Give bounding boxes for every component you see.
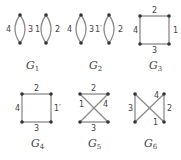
edge-label: 4 [133, 26, 138, 35]
edge [104, 15, 109, 43]
vertex [18, 41, 22, 45]
graph-diagram: 4 3 1 2 G1 4 3 1′ 2 G2 2 1 3 4 G3 [0, 0, 181, 160]
vertex [106, 92, 110, 96]
edge [20, 15, 25, 43]
vertex [167, 14, 171, 18]
edge-label: 4 [15, 104, 20, 113]
edge-label: 2 [167, 104, 172, 113]
edge-label: 1′ [54, 104, 61, 113]
vertex [138, 14, 142, 18]
graph-label: G6 [144, 137, 158, 151]
graph-label: G4 [31, 137, 45, 151]
edge-label: 3 [91, 124, 96, 133]
vertex [133, 120, 137, 124]
edge-label: 2 [34, 84, 39, 93]
edge-label: 2 [118, 25, 123, 34]
graph-g6: 3 2 4 1 G6 [128, 91, 172, 151]
edge-label: 1 [35, 25, 40, 34]
graph-label: G2 [89, 59, 102, 73]
edge-label: 3 [28, 25, 33, 34]
graph-label: G5 [88, 137, 101, 151]
vertex [167, 42, 171, 46]
edge-label: 4 [6, 25, 11, 34]
vertex [49, 120, 53, 124]
graph-g2: 4 3 1′ 2 G2 [67, 13, 123, 73]
edge [109, 15, 114, 43]
vertex [133, 92, 137, 96]
graph-label: G1 [26, 59, 39, 73]
graph-g4: 2 1′ 3 4 G4 [15, 84, 61, 151]
vertex [107, 41, 111, 45]
edge [15, 15, 20, 43]
edge-label: 3 [128, 104, 133, 113]
vertex [78, 92, 82, 96]
edge-label: 1 [153, 118, 158, 127]
graph-g5: 2 3 1 4 G5 [78, 84, 110, 151]
edge-label: 3 [152, 46, 157, 55]
edge [46, 15, 51, 43]
vertex [78, 120, 82, 124]
edge-label: 1 [79, 100, 84, 109]
vertex [18, 13, 22, 17]
vertex [106, 120, 110, 124]
vertex [44, 13, 48, 17]
vertex [49, 92, 53, 96]
vertex [107, 13, 111, 17]
vertex [138, 42, 142, 46]
edge-label: 4 [154, 91, 159, 100]
edge [41, 15, 46, 43]
edge-label: 3 [89, 25, 94, 34]
vertex [20, 92, 24, 96]
edge-label: 4 [67, 25, 72, 34]
edge-label: 2 [91, 84, 96, 93]
edge [76, 15, 81, 43]
graph-label: G3 [149, 59, 162, 73]
graph-g1: 4 3 1 2 G1 [6, 13, 60, 73]
edge-label: 1 [173, 26, 178, 35]
graph-g3: 2 1 3 4 G3 [133, 6, 178, 73]
edge-label: 2 [55, 25, 60, 34]
edge-label: 1′ [95, 25, 102, 34]
vertex [79, 13, 83, 17]
edge-label: 2 [152, 6, 157, 15]
edge-label: 4 [103, 100, 108, 109]
vertex [162, 92, 166, 96]
vertex [44, 41, 48, 45]
edge [140, 16, 169, 44]
edge [81, 15, 86, 43]
edge-label: 3 [34, 124, 39, 133]
vertex [20, 120, 24, 124]
vertex [79, 41, 83, 45]
edge [22, 94, 51, 122]
vertex [162, 120, 166, 124]
